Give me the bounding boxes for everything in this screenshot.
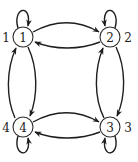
edge-2-2	[104, 10, 116, 28]
edge-4-1	[8, 48, 16, 118]
edge-1-4	[28, 47, 36, 116]
edge-2-3	[116, 47, 124, 116]
edge-4-4	[17, 136, 29, 153]
node-4: 4	[13, 117, 33, 137]
edge-3-3	[104, 136, 116, 153]
node-4-outer-label: 4	[2, 121, 10, 135]
node-1-label: 1	[19, 31, 27, 45]
node-2-outer-label: 2	[124, 31, 132, 45]
edge-4-3	[33, 113, 99, 122]
edge-3-4	[35, 132, 100, 138]
graph-diagram: 1 2 3 4 1 2 3 4	[0, 0, 138, 162]
edge-1-1	[17, 10, 29, 28]
node-3-label: 3	[106, 121, 114, 135]
edge-3-2	[96, 48, 104, 118]
node-2: 2	[100, 27, 120, 47]
node-4-label: 4	[19, 121, 27, 135]
node-1: 1	[13, 27, 33, 47]
node-3-outer-label: 3	[124, 121, 132, 135]
node-2-label: 2	[106, 31, 114, 45]
node-1-outer-label: 1	[2, 31, 10, 45]
edge-2-1	[35, 42, 100, 48]
node-3: 3	[100, 117, 120, 137]
edge-1-2	[33, 23, 99, 32]
